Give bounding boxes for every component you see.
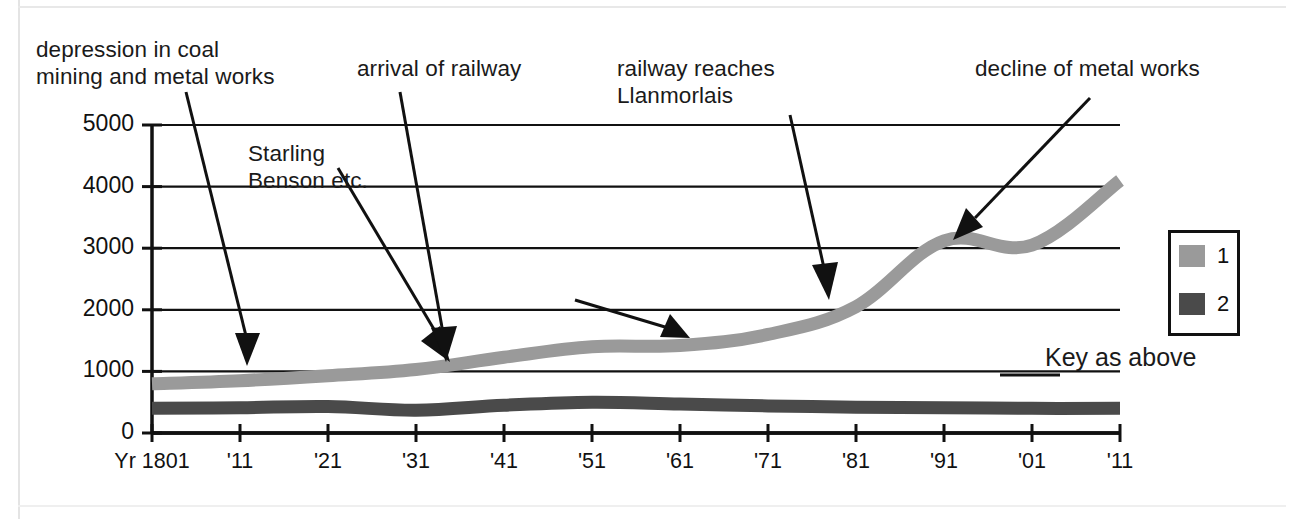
- legend-label-2: 2: [1217, 291, 1229, 317]
- legend-swatch-1: [1179, 245, 1205, 267]
- annotation-depression: depression in coal mining and metal work…: [36, 36, 275, 90]
- key-as-above-note: Key as above: [1045, 343, 1197, 372]
- legend-item-2: 2: [1179, 291, 1229, 317]
- annotation-arrival-of-railway: arrival of railway: [357, 55, 521, 82]
- arrow-railway-reaches: [790, 115, 838, 300]
- y-tick-label-5000: 5000: [48, 110, 134, 137]
- annotation-railway-reaches-llanmorlais: railway reaches Llanmorlais: [617, 55, 775, 109]
- chart-page: depression in coal mining and metal work…: [0, 0, 1300, 519]
- arrow-railway-llanmorlais: [575, 300, 690, 338]
- arrow-depression: [186, 92, 260, 366]
- data-series-group: [152, 180, 1120, 410]
- annotation-starling-benson: Starling Benson etc.: [248, 140, 368, 194]
- legend-swatch-2: [1179, 293, 1205, 315]
- y-tick-label-1000: 1000: [48, 356, 134, 383]
- y-tick-label-0: 0: [48, 418, 134, 445]
- series-line-2: [152, 402, 1120, 410]
- y-tick-label-2000: 2000: [48, 295, 134, 322]
- series-line-1: [152, 180, 1120, 383]
- annotation-arrows: [186, 92, 1090, 366]
- y-tick-label-3000: 3000: [48, 233, 134, 260]
- legend-label-1: 1: [1217, 243, 1229, 269]
- legend-item-1: 1: [1179, 243, 1229, 269]
- y-tick-label-4000: 4000: [48, 172, 134, 199]
- annotation-decline-of-metal-works: decline of metal works: [975, 55, 1200, 82]
- legend: 1 2: [1168, 230, 1240, 336]
- x-tick-label-1911: '11: [1060, 449, 1180, 474]
